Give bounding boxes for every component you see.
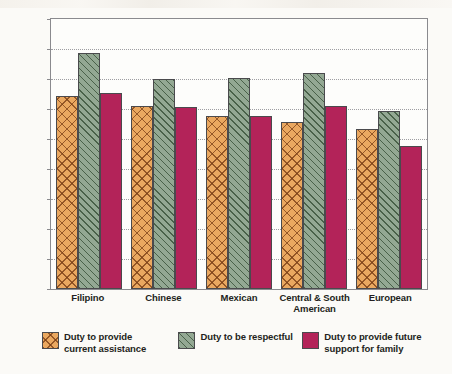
x-axis-category-label: European [352, 292, 428, 303]
bar-group [206, 19, 272, 289]
bar [78, 53, 100, 289]
legend-swatch [302, 332, 319, 349]
y-axis-tick-mark [47, 169, 51, 170]
legend-label: Duty to be respectful [200, 331, 292, 343]
bar [356, 129, 378, 289]
chart-legend: Duty to providecurrent assistanceDuty to… [42, 331, 446, 354]
bar [228, 78, 250, 289]
bar [153, 79, 175, 289]
plot-area [50, 18, 428, 290]
grouped-bar-chart: 00.511.522.533.544.5 Strength of Value F… [0, 0, 452, 374]
x-axis-category-label: Mexican [201, 292, 277, 303]
y-axis-tick-mark [47, 199, 51, 200]
y-axis-tick-mark [47, 19, 51, 20]
legend-swatch [42, 332, 59, 349]
y-axis-tick-mark [47, 139, 51, 140]
bar-group [56, 19, 122, 289]
y-axis-tick-mark [47, 109, 51, 110]
x-axis-category-labels: FilipinoChineseMexicanCentral & SouthAme… [50, 292, 428, 320]
bar-groups [51, 19, 427, 289]
bar [325, 106, 347, 289]
bar-group [356, 19, 422, 289]
bar [400, 146, 422, 289]
bar [378, 111, 400, 289]
legend-label: Duty to providecurrent assistance [64, 331, 146, 354]
y-axis-tick-mark [47, 259, 51, 260]
bar [175, 107, 197, 289]
x-axis-category-label: Filipino [50, 292, 126, 303]
legend-item: Duty to be respectful [178, 331, 302, 349]
legend-item: Duty to provide futuresupport for family [302, 331, 446, 354]
bar [303, 73, 325, 289]
legend-item: Duty to providecurrent assistance [42, 331, 178, 354]
bar-group [131, 19, 197, 289]
bar [206, 116, 228, 289]
y-axis-tick-mark [47, 289, 51, 290]
bar [56, 96, 78, 289]
y-axis-tick-mark [47, 49, 51, 50]
legend-label: Duty to provide futuresupport for family [324, 331, 421, 354]
bar [100, 93, 122, 289]
bar [250, 116, 272, 289]
bar [281, 122, 303, 289]
y-axis-tick-mark [47, 229, 51, 230]
y-axis-tick-mark [47, 79, 51, 80]
x-axis-category-label: Chinese [126, 292, 202, 303]
legend-swatch [178, 332, 195, 349]
x-axis-category-label: Central & SouthAmerican [277, 292, 353, 314]
bar [131, 106, 153, 289]
bar-group [281, 19, 347, 289]
